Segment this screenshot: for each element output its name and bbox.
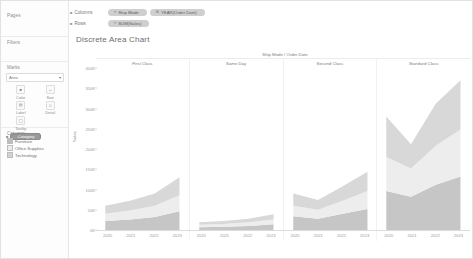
x-tick-label[interactable]: 2022: [424, 231, 447, 241]
detail-icon: △: [46, 101, 55, 110]
left-sidebar: Pages Filters Marks Area ▾ ■ Color ↔ Siz…: [1, 1, 69, 258]
rows-bullet-icon: ■: [70, 21, 72, 26]
columns-pill-ship-mode-label: Ship Mode: [118, 10, 139, 15]
tooltip-icon: ◯: [16, 116, 25, 125]
marks-size-button[interactable]: ↔ Size: [36, 85, 66, 100]
y-tick-label: 50K: [88, 207, 95, 212]
panel-header-second-class[interactable]: Second Class: [284, 59, 378, 68]
panel-header-standard-class[interactable]: Standard Class: [377, 59, 470, 68]
color-icon: ■: [16, 85, 25, 94]
y-tick-label: 200K: [85, 147, 95, 152]
page-title: Discrete Area Chart: [70, 34, 472, 44]
x-axis-panel: 2020202120222023: [96, 231, 190, 241]
worksheet-canvas: Discrete Area Chart Ship Mode / Order Da…: [70, 34, 472, 258]
rows-shelf-label: Rows: [74, 21, 86, 26]
shelf-area: ■ Columns ≡ Ship Mode ⊞ YEAR(Order Date)…: [70, 7, 472, 33]
pages-card-title: Pages: [1, 10, 69, 20]
column-field-label: Ship Mode / Order Date: [100, 52, 470, 57]
x-tick-label[interactable]: 2023: [447, 231, 470, 241]
size-icon: ↔: [46, 85, 55, 94]
chevron-down-icon: ▾: [59, 75, 61, 80]
pages-card: Pages: [1, 10, 69, 37]
marks-card: Marks Area ▾ ■ Color ↔ Size ▤ Label: [1, 62, 69, 128]
x-axis-panel: 2020202120222023: [377, 231, 470, 241]
legend-label-furniture: Furniture: [15, 139, 32, 144]
rows-pill-sales-label: SUM(Sales): [118, 21, 141, 26]
x-tick-label[interactable]: 2022: [142, 231, 165, 241]
x-tick-label[interactable]: 2022: [330, 231, 353, 241]
x-tick-label[interactable]: 2021: [307, 231, 330, 241]
mark-encoding-buttons: ■ Color ↔ Size ▤ Label △ Detail ◯ Tool: [1, 84, 69, 132]
marks-color-label: Color: [16, 95, 25, 100]
marks-color-button[interactable]: ■ Color: [6, 85, 36, 100]
x-tick-label[interactable]: 2023: [259, 231, 282, 241]
columns-shelf-label: Columns: [74, 10, 92, 15]
marks-detail-button[interactable]: △ Detail: [36, 101, 66, 116]
panel-header-same-day[interactable]: Same Day: [190, 59, 284, 68]
legend-item-technology[interactable]: Technology: [1, 152, 69, 159]
x-tick-label[interactable]: 2021: [213, 231, 236, 241]
chart-panel-same-day[interactable]: [190, 68, 284, 230]
label-icon: ▤: [16, 101, 25, 110]
columns-bullet-icon: ■: [70, 10, 72, 15]
x-tick-label[interactable]: 2020: [284, 231, 307, 241]
panel-header-first-class[interactable]: First Class: [96, 59, 190, 68]
tableau-worksheet-window: Pages Filters Marks Area ▾ ■ Color ↔ Siz…: [0, 0, 473, 259]
marks-size-label: Size: [46, 95, 54, 100]
legend-item-office-supplies[interactable]: Office Supplies: [1, 145, 69, 152]
y-axis-ticks: 0K50K100K150K200K250K300K350K400K: [77, 68, 95, 230]
columns-shelf-name: ■ Columns: [70, 10, 108, 15]
columns-pill-order-date-label: YEAR(Order Date): [161, 10, 197, 15]
legend-item-furniture[interactable]: Furniture: [1, 138, 69, 145]
date-field-icon: ⊞: [156, 10, 159, 15]
panel-headers: First Class Same Day Second Class Standa…: [96, 59, 470, 68]
x-axis-panel: 2020202120222023: [284, 231, 378, 241]
columns-pill-order-date[interactable]: ⊞ YEAR(Order Date): [150, 9, 205, 17]
x-tick-label[interactable]: 2022: [236, 231, 259, 241]
y-tick-label: 150K: [85, 167, 95, 172]
marks-card-title: Marks: [1, 62, 69, 72]
marks-label-label: Label: [16, 110, 26, 115]
rows-shelf[interactable]: ■ Rows ≡ SUM(Sales): [70, 18, 472, 29]
y-tick-label: 400K: [85, 66, 95, 71]
x-tick-label[interactable]: 2021: [400, 231, 423, 241]
y-tick-label: 100K: [85, 187, 95, 192]
x-tick-label[interactable]: 2020: [190, 231, 213, 241]
mark-type-dropdown[interactable]: Area ▾: [6, 73, 64, 82]
y-tick-label: 250K: [85, 126, 95, 131]
legend-swatch-icon: [7, 152, 13, 158]
legend-swatch-icon: [7, 138, 13, 144]
rows-pill-sales[interactable]: ≡ SUM(Sales): [108, 20, 149, 28]
legend-label-technology: Technology: [15, 153, 37, 158]
legend-label-office-supplies: Office Supplies: [15, 146, 44, 151]
legend-swatch-icon: [7, 145, 13, 151]
filters-card: Filters: [1, 37, 69, 62]
mark-type-value: Area: [9, 75, 18, 80]
plot-area: [96, 68, 470, 230]
x-tick-label[interactable]: 2023: [166, 231, 189, 241]
x-axis-panel: 2020202120222023: [190, 231, 284, 241]
rows-shelf-name: ■ Rows: [70, 21, 108, 26]
chart-panel-standard-class[interactable]: [377, 68, 470, 230]
x-axis-labels: 2020202120222023202020212022202320202021…: [96, 231, 470, 241]
columns-pill-ship-mode[interactable]: ≡ Ship Mode: [108, 9, 147, 17]
chart-panel-second-class[interactable]: [284, 68, 378, 230]
measure-field-icon: ≡: [114, 21, 116, 26]
y-tick-label: 350K: [85, 86, 95, 91]
filters-card-title: Filters: [1, 37, 69, 47]
x-tick-label[interactable]: 2020: [96, 231, 119, 241]
columns-shelf[interactable]: ■ Columns ≡ Ship Mode ⊞ YEAR(Order Date): [70, 7, 472, 18]
category-legend: Category Furniture Office Supplies Techn…: [1, 128, 69, 168]
marks-detail-label: Detail: [45, 110, 55, 115]
legend-title: Category: [1, 128, 69, 138]
discrete-field-icon: ≡: [114, 10, 116, 15]
x-tick-label[interactable]: 2023: [353, 231, 376, 241]
x-tick-label[interactable]: 2021: [119, 231, 142, 241]
chart-panel-first-class[interactable]: [96, 68, 190, 230]
y-tick-label: 300K: [85, 106, 95, 111]
marks-label-button[interactable]: ▤ Label: [6, 101, 36, 116]
x-tick-label[interactable]: 2020: [377, 231, 400, 241]
